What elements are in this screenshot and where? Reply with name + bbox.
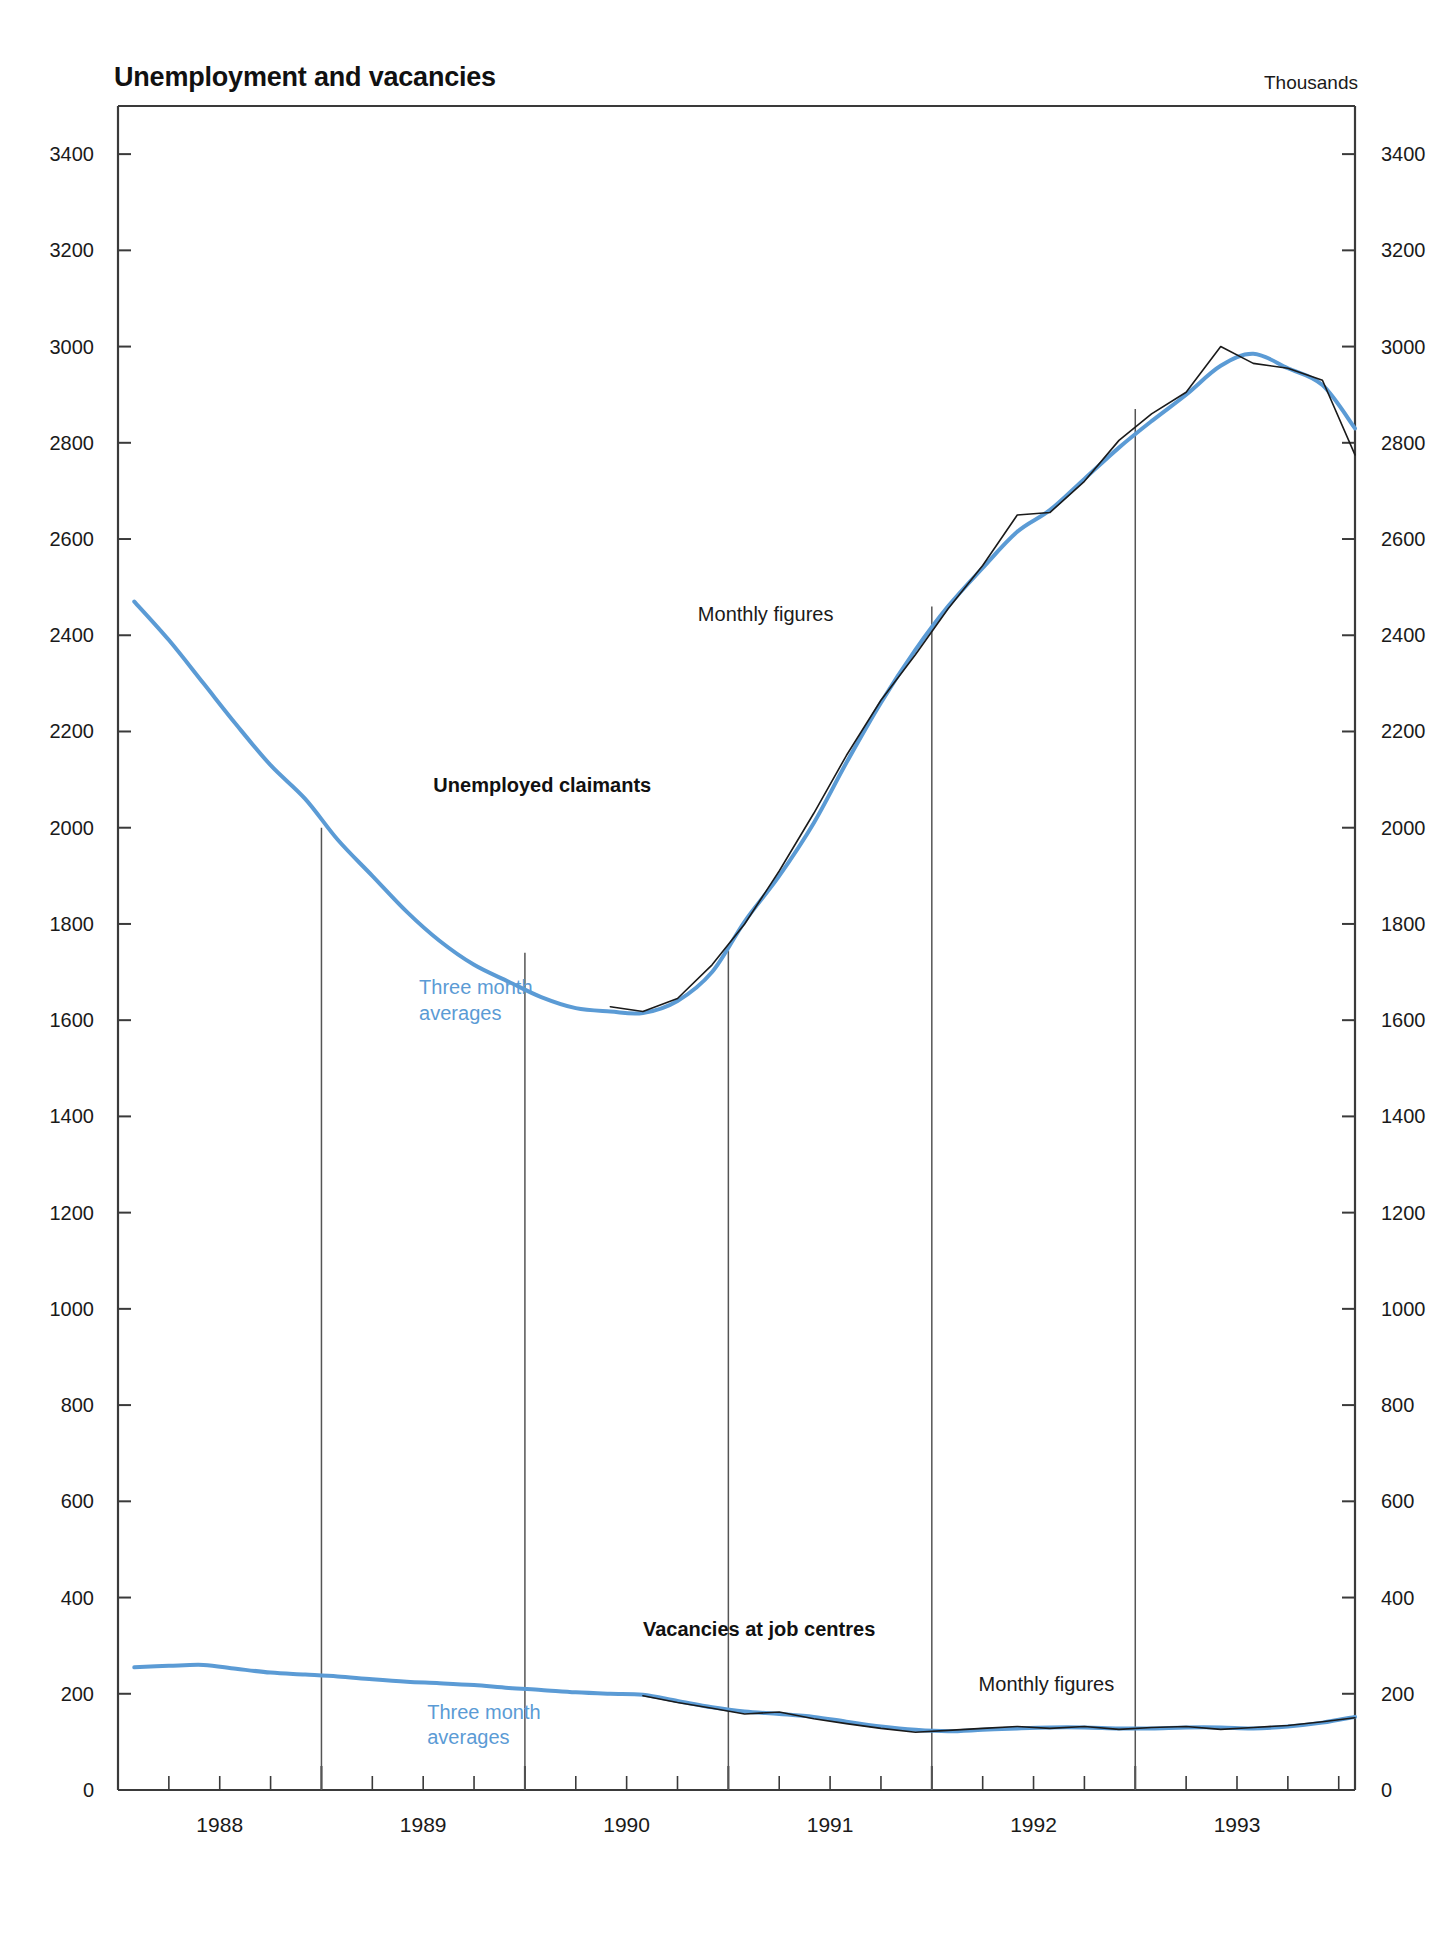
annotation-unemployed-claimants: Unemployed claimants	[433, 774, 651, 796]
y-tick-label-left: 3200	[50, 239, 95, 261]
x-tick-label: 1990	[603, 1813, 650, 1836]
y-tick-label-right: 2400	[1381, 624, 1426, 646]
y-tick-label-left: 1800	[50, 913, 95, 935]
y-tick-label-right: 2800	[1381, 432, 1426, 454]
axes-group	[118, 106, 1355, 1790]
x-tick-label: 1993	[1214, 1813, 1261, 1836]
y-tick-label-left: 200	[61, 1683, 94, 1705]
y-tick-label-left: 2200	[50, 720, 95, 742]
y-tick-label-left: 2600	[50, 528, 95, 550]
series-line	[134, 354, 1355, 1014]
series-line	[134, 1665, 1355, 1732]
y-tick-label-right: 200	[1381, 1683, 1414, 1705]
annotation-vacancies-job-centres: Vacancies at job centres	[643, 1618, 875, 1640]
y-tick-label-right: 3200	[1381, 239, 1426, 261]
y-tick-label-right: 1400	[1381, 1105, 1426, 1127]
y-tick-label-right: 800	[1381, 1394, 1414, 1416]
x-tick-label: 1991	[807, 1813, 854, 1836]
y-tick-label-left: 600	[61, 1490, 94, 1512]
y-tick-label-left: 400	[61, 1587, 94, 1609]
x-tick-label: 1988	[196, 1813, 243, 1836]
series-group	[134, 347, 1355, 1733]
y-tick-label-right: 2200	[1381, 720, 1426, 742]
annotation-vacancies-three-month: Three month	[427, 1701, 540, 1723]
y-tick-label-right: 2000	[1381, 817, 1426, 839]
y-tick-label-left: 0	[83, 1779, 94, 1801]
y-tick-label-left: 1400	[50, 1105, 95, 1127]
annotation-claimants-monthly-figures: Monthly figures	[698, 603, 834, 625]
y-tick-label-right: 400	[1381, 1587, 1414, 1609]
y-tick-label-right: 1600	[1381, 1009, 1426, 1031]
axis-labels-group: 0020020040040060060080080010001000120012…	[50, 143, 1426, 1836]
chart-page: Unemployment and vacancies Thousands 002…	[0, 0, 1441, 1945]
y-tick-label-right: 3000	[1381, 336, 1426, 358]
y-tick-label-left: 2000	[50, 817, 95, 839]
y-tick-label-left: 3400	[50, 143, 95, 165]
y-tick-label-left: 800	[61, 1394, 94, 1416]
y-tick-label-left: 3000	[50, 336, 95, 358]
y-tick-label-left: 1600	[50, 1009, 95, 1031]
annotation-claimants-three-month-2: averages	[419, 1002, 501, 1024]
unemployment-vacancies-figure: Unemployment and vacancies Thousands 002…	[0, 0, 1441, 1945]
y-tick-label-right: 1800	[1381, 913, 1426, 935]
series-line	[610, 347, 1355, 1012]
x-tick-label: 1989	[400, 1813, 447, 1836]
annotation-vacancies-monthly-figures: Monthly figures	[979, 1673, 1115, 1695]
chart-canvas: 0020020040040060060080080010001000120012…	[0, 0, 1441, 1945]
y-tick-label-right: 0	[1381, 1779, 1392, 1801]
x-tick-label: 1992	[1010, 1813, 1057, 1836]
y-tick-label-right: 1200	[1381, 1202, 1426, 1224]
y-tick-label-left: 2800	[50, 432, 95, 454]
y-tick-label-left: 1200	[50, 1202, 95, 1224]
y-tick-label-right: 2600	[1381, 528, 1426, 550]
annotations-group: Unemployed claimantsMonthly figuresThree…	[419, 603, 1114, 1748]
y-tick-label-right: 1000	[1381, 1298, 1426, 1320]
y-tick-label-right: 600	[1381, 1490, 1414, 1512]
annotation-vacancies-three-month-2: averages	[427, 1726, 509, 1748]
y-tick-label-left: 2400	[50, 624, 95, 646]
y-tick-label-left: 1000	[50, 1298, 95, 1320]
y-tick-label-right: 3400	[1381, 143, 1426, 165]
annotation-claimants-three-month: Three month	[419, 976, 532, 998]
